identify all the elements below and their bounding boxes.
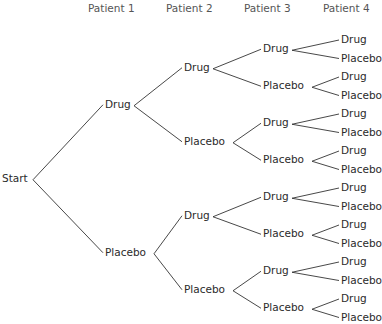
tree-edge <box>233 291 261 309</box>
node-patient4-placebo: Placebo <box>341 163 382 175</box>
tree-edge <box>154 254 182 290</box>
tree-edge <box>292 114 339 124</box>
treatment-assignment-tree: Patient 1 Patient 2 Patient 3 Patient 4 … <box>0 0 382 324</box>
tree-edge <box>213 69 261 87</box>
tree-edge <box>233 123 261 143</box>
node-patient4-placebo: Placebo <box>341 274 382 286</box>
tree-edge <box>233 271 261 291</box>
node-patient1-drug: Drug <box>105 98 131 110</box>
node-patient3-drug: Drug <box>263 264 289 276</box>
node-patient4-placebo: Placebo <box>341 311 382 323</box>
node-patient2-placebo: Placebo <box>184 283 225 295</box>
node-patient4-placebo: Placebo <box>341 89 382 101</box>
tree-edge <box>292 198 339 206</box>
tree-edge <box>33 105 103 180</box>
node-patient4-drug: Drug <box>341 292 367 304</box>
node-patient4-placebo: Placebo <box>341 52 382 64</box>
node-patient4-drug: Drug <box>341 70 367 82</box>
node-patient2-placebo: Placebo <box>184 135 225 147</box>
node-patient4-drug: Drug <box>341 181 367 193</box>
tree-edge <box>292 50 339 58</box>
tree-edge <box>292 262 339 272</box>
node-patient3-placebo: Placebo <box>263 301 304 313</box>
tree-edge <box>154 216 182 254</box>
node-patient3-placebo: Placebo <box>263 153 304 165</box>
tree-edge <box>213 217 261 235</box>
node-patient4-placebo: Placebo <box>341 126 382 138</box>
tree-edge <box>312 77 339 87</box>
start-node: Start <box>2 172 28 184</box>
tree-edge <box>312 309 339 317</box>
node-patient4-drug: Drug <box>341 107 367 119</box>
tree-edge <box>134 106 182 142</box>
tree-edge <box>213 197 261 217</box>
node-patient4-drug: Drug <box>341 218 367 230</box>
node-patient2-drug: Drug <box>184 61 210 73</box>
tree-edge <box>312 299 339 309</box>
node-patient4-drug: Drug <box>341 33 367 45</box>
node-patient3-drug: Drug <box>263 116 289 128</box>
tree-edge <box>233 143 261 161</box>
tree-edge <box>312 235 339 243</box>
node-patient2-drug: Drug <box>184 209 210 221</box>
tree-edge <box>312 87 339 95</box>
node-patient4-placebo: Placebo <box>341 200 382 212</box>
tree-edge <box>213 49 261 69</box>
tree-edge <box>292 40 339 50</box>
tree-edge <box>312 161 339 169</box>
node-patient1-placebo: Placebo <box>105 246 146 258</box>
tree-edge <box>292 188 339 198</box>
tree-edge <box>312 225 339 235</box>
tree-edge <box>312 151 339 161</box>
node-patient3-placebo: Placebo <box>263 227 304 239</box>
node-patient4-drug: Drug <box>341 255 367 267</box>
tree-edges <box>0 0 382 324</box>
node-patient3-placebo: Placebo <box>263 79 304 91</box>
tree-edge <box>134 68 182 106</box>
node-patient3-drug: Drug <box>263 42 289 54</box>
node-patient3-drug: Drug <box>263 190 289 202</box>
node-patient4-placebo: Placebo <box>341 237 382 249</box>
tree-edge <box>292 272 339 280</box>
node-patient4-drug: Drug <box>341 144 367 156</box>
tree-edge <box>292 124 339 132</box>
tree-edge <box>33 180 103 253</box>
